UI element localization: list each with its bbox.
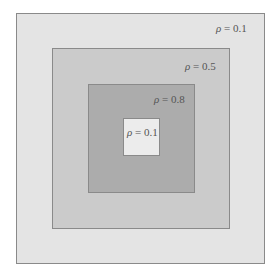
- equals-sign: =: [132, 126, 144, 138]
- label-middle-density: ρ = 0.5: [185, 61, 216, 72]
- equals-sign: =: [221, 22, 233, 34]
- equals-sign: =: [159, 93, 171, 105]
- density-value: 0.1: [144, 126, 158, 138]
- density-value: 0.8: [171, 93, 185, 105]
- density-value: 0.1: [233, 22, 247, 34]
- label-outer-density: ρ = 0.1: [216, 23, 247, 34]
- label-inner-density: ρ = 0.8: [154, 94, 185, 105]
- density-value: 0.5: [202, 60, 216, 72]
- equals-sign: =: [190, 60, 202, 72]
- label-core-density: ρ = 0.1: [127, 127, 158, 138]
